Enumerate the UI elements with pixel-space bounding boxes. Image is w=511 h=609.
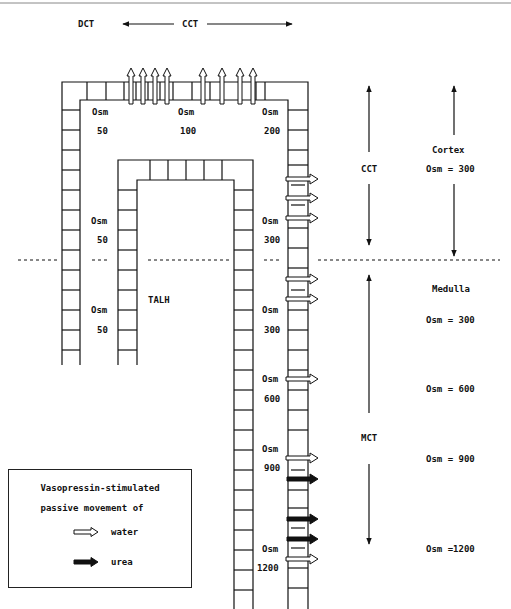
osm-label-1200: Osm (262, 544, 279, 554)
osm-value-cct-end: 200 (264, 126, 280, 136)
medulla-osm-300: Osm = 300 (426, 315, 475, 325)
osm-label-900: Osm (262, 444, 279, 454)
medulla-osm-1200: Osm =1200 (426, 544, 475, 554)
osm-value-1200: 1200 (257, 563, 279, 573)
legend-title-line1: Vasopressin-stimulated (9, 483, 191, 493)
cct-segment-label: CCT (361, 164, 378, 174)
osm-label-mid-left: Osm (91, 216, 108, 226)
hollow-arrow-icon (73, 527, 99, 537)
osm-value-mid-left: 50 (97, 235, 108, 245)
legend-box: Vasopressin-stimulated passive movement … (8, 469, 192, 588)
medulla-osm-900: Osm = 900 (426, 454, 475, 464)
osm-label-mid-right: Osm (262, 216, 279, 226)
osm-value-mid-right: 300 (264, 235, 280, 245)
osm-label-lower-right: Osm (262, 305, 279, 315)
osm-label-600: Osm (262, 374, 279, 384)
cortex-osm: Osm = 300 (426, 164, 475, 174)
osm-value-900: 900 (264, 463, 280, 473)
osm-label-dct: Osm (92, 107, 109, 117)
medulla-osm-600: Osm = 600 (426, 384, 475, 394)
legend-label-water: water (111, 527, 138, 537)
medulla-label: Medulla (432, 284, 470, 294)
osm-value-lower-left: 50 (97, 325, 108, 335)
legend-item-water: water (73, 527, 138, 537)
mct-segment-label: MCT (361, 433, 378, 443)
osm-value-dct: 50 (97, 126, 108, 136)
legend-title-line2: passive movement of (1, 503, 183, 513)
osm-label-lower-left: Osm (91, 305, 108, 315)
solid-arrow-icon (73, 557, 99, 567)
legend-item-urea: urea (73, 557, 133, 567)
talh-label: TALH (148, 295, 170, 305)
osm-value-600: 600 (264, 394, 280, 404)
urea-efflux-arrows (287, 474, 318, 544)
cct-header-label: CCT (182, 19, 199, 29)
osm-label-cct-end: Osm (262, 107, 279, 117)
dct-label: DCT (78, 19, 95, 29)
legend-label-urea: urea (111, 557, 133, 567)
water-efflux-arrows-cd (286, 174, 318, 564)
osm-value-lower-right: 300 (264, 325, 280, 335)
cortex-label: Cortex (432, 145, 465, 155)
osm-label-cct-mid: Osm (178, 107, 195, 117)
osm-value-cct-mid: 100 (180, 126, 196, 136)
